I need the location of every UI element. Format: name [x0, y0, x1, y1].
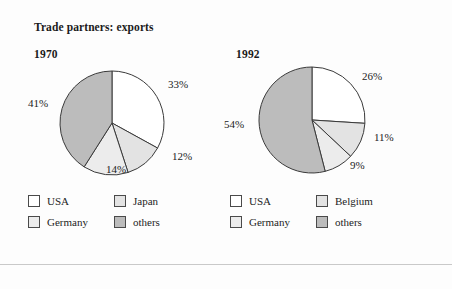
pct-label-japan: 12%	[172, 150, 192, 162]
legend-label-japan: Japan	[133, 195, 158, 207]
pie-panel-1992: 1992 26%11%9%54% USA Belgium Germany oth…	[222, 0, 432, 260]
legend-1970: USA Japan Germany others	[28, 190, 226, 232]
legend-label-others: others	[133, 216, 160, 228]
legend-item-germany: Germany	[230, 216, 316, 228]
pie-svg-1992	[222, 62, 432, 184]
pie-slice-usa	[312, 67, 365, 123]
pct-label-germany: 14%	[106, 163, 126, 175]
legend-swatch-belgium	[316, 195, 328, 207]
legend-item-others: others	[316, 216, 416, 228]
pct-label-germany: 9%	[350, 159, 365, 171]
legend-label-usa: USA	[249, 195, 271, 207]
pct-label-others: 41%	[28, 97, 48, 109]
pct-label-usa: 33%	[168, 78, 188, 90]
pie-panel-1970: 1970 33%12%14%41% USA Japan Germany othe…	[20, 0, 230, 260]
pct-label-usa: 26%	[362, 70, 382, 82]
legend-item-others: others	[114, 216, 214, 228]
legend-swatch-usa	[230, 195, 242, 207]
legend-swatch-germany	[28, 216, 40, 228]
legend-swatch-germany	[230, 216, 242, 228]
legend-label-belgium: Belgium	[335, 195, 373, 207]
legend-swatch-usa	[28, 195, 40, 207]
legend-swatch-japan	[114, 195, 126, 207]
pct-label-others: 54%	[224, 118, 244, 130]
legend-item-belgium: Belgium	[316, 195, 416, 207]
legend-label-usa: USA	[47, 195, 69, 207]
pct-label-belgium: 11%	[374, 131, 394, 143]
legend-item-germany: Germany	[28, 216, 114, 228]
pie-chart-1992	[222, 62, 432, 184]
legend-swatch-others	[316, 216, 328, 228]
legend-label-others: others	[335, 216, 362, 228]
legend-item-japan: Japan	[114, 195, 214, 207]
panel-year-label-1970: 1970	[34, 48, 58, 60]
panel-year-label-1992: 1992	[236, 48, 260, 60]
legend-item-usa: USA	[28, 195, 114, 207]
legend-1992: USA Belgium Germany others	[230, 190, 428, 232]
legend-item-usa: USA	[230, 195, 316, 207]
bottom-divider	[0, 264, 452, 265]
legend-label-germany: Germany	[47, 216, 88, 228]
chart-figure: Trade partners: exports 1970 33%12%14%41…	[0, 0, 452, 289]
legend-label-germany: Germany	[249, 216, 290, 228]
legend-swatch-others	[114, 216, 126, 228]
